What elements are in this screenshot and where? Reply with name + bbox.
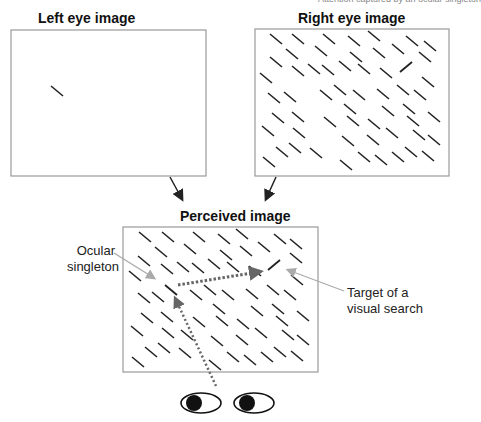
second-saccade-path xyxy=(178,272,258,285)
right-eye-icon xyxy=(234,393,274,413)
right-arrow xyxy=(266,177,276,199)
left-eye-icon xyxy=(181,393,221,413)
first-saccade-path xyxy=(176,300,216,386)
left-arrow xyxy=(170,177,182,199)
search-target-bar xyxy=(268,260,280,270)
perceived-bars xyxy=(129,229,309,370)
right-eye-bars xyxy=(260,31,440,170)
perceived-frame xyxy=(123,227,318,372)
left-eye-frame xyxy=(11,30,206,176)
singleton-bar xyxy=(51,86,63,96)
ocular-singleton-bar xyxy=(165,285,177,295)
